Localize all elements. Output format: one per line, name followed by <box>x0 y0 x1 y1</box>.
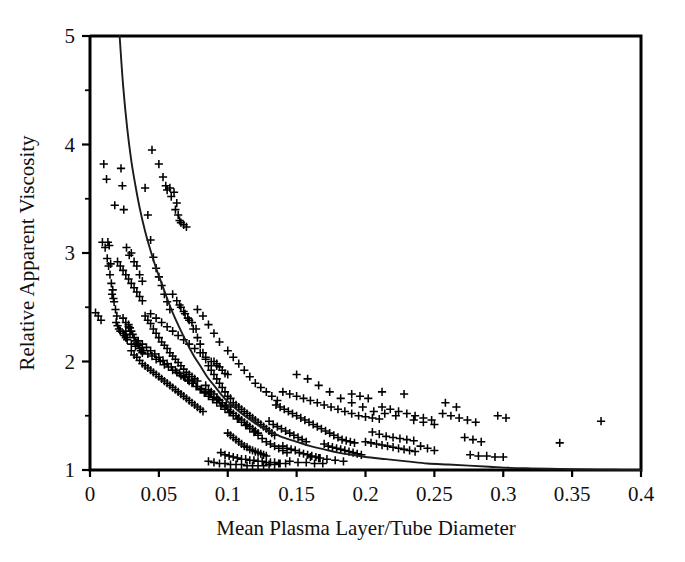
x-axis-title: Mean Plasma Layer/Tube Diameter <box>216 516 516 540</box>
x-tick-label: 0.2 <box>352 482 378 506</box>
y-tick-label: 4 <box>65 133 76 157</box>
y-axis-title: Relative Apparent Viscosity <box>15 135 39 371</box>
chart-figure: 00.050.10.150.20.250.30.350.4 12345 Mean… <box>0 0 685 562</box>
x-tick-label: 0.25 <box>416 482 453 506</box>
y-tick-label: 1 <box>65 458 76 482</box>
x-tick-label: 0.1 <box>215 482 241 506</box>
x-tick-label: 0.05 <box>141 482 178 506</box>
x-tick-label: 0.35 <box>554 482 591 506</box>
x-tick-label: 0 <box>85 482 96 506</box>
y-tick-label: 3 <box>65 241 76 265</box>
x-axis-tick-labels: 00.050.10.150.20.250.30.350.4 <box>85 482 655 506</box>
y-tick-label: 5 <box>65 24 76 48</box>
x-tick-label: 0.4 <box>628 482 655 506</box>
scatter-plot-svg: 00.050.10.150.20.250.30.350.4 12345 Mean… <box>0 0 685 562</box>
x-tick-label: 0.15 <box>278 482 315 506</box>
x-tick-label: 0.3 <box>490 482 516 506</box>
y-tick-label: 2 <box>65 350 76 374</box>
figure-background <box>0 0 685 562</box>
